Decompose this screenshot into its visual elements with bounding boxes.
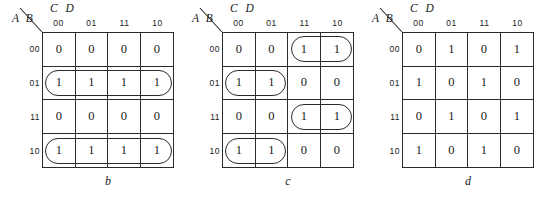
kmap-cell: 0: [321, 67, 354, 101]
row-header-11: 11: [374, 100, 400, 134]
kmap-cell: 0: [436, 67, 469, 101]
column-header-row: 00011110: [222, 18, 354, 28]
kmap-cell: 0: [256, 100, 289, 134]
karnaugh-map-figure: A BC D00011110000111100000111100001111bA…: [0, 0, 545, 202]
column-header-10: 10: [141, 18, 174, 28]
row-header-11: 11: [14, 100, 40, 134]
kmap-c: A BC D00011110000111100011110000111100c: [180, 0, 360, 202]
kmap-cell: 1: [256, 134, 289, 168]
kmap-grid-c: 0011110000111100: [222, 32, 354, 168]
kmap-cell: 0: [256, 33, 289, 67]
kmap-cell: 1: [321, 100, 354, 134]
kmap-cell: 1: [76, 67, 109, 101]
kmap-cell: 0: [141, 33, 174, 67]
kmap-cell: 0: [501, 67, 534, 101]
kmap-cell: 0: [436, 134, 469, 168]
kmap-cell: 0: [288, 67, 321, 101]
kmap-cell: 1: [141, 134, 174, 168]
kmap-cell: 1: [436, 33, 469, 67]
row-header-00: 00: [14, 32, 40, 66]
kmap-cell: 0: [468, 33, 501, 67]
kmap-cell: 1: [403, 134, 436, 168]
row-header-column: 00011110: [374, 32, 400, 168]
column-header-10: 10: [321, 18, 354, 28]
kmap-cell: 0: [108, 33, 141, 67]
kmap-cell: 1: [76, 134, 109, 168]
column-header-11: 11: [468, 18, 501, 28]
kmap-cell: 1: [288, 33, 321, 67]
row-header-column: 00011110: [14, 32, 40, 168]
column-variable-label: C D: [230, 2, 256, 14]
kmap-cell: 1: [108, 67, 141, 101]
kmap-cell: 1: [468, 67, 501, 101]
row-header-01: 01: [374, 66, 400, 100]
kmap-grid-d: 0101101001011010: [402, 32, 534, 168]
kmap-grid-b: 0000111100001111: [42, 32, 174, 168]
row-header-10: 10: [194, 134, 220, 168]
kmap-cell: 0: [108, 100, 141, 134]
kmap-cell: 1: [501, 100, 534, 134]
kmap-cell: 1: [288, 100, 321, 134]
kmap-cell: 1: [256, 67, 289, 101]
column-header-00: 00: [42, 18, 75, 28]
row-header-01: 01: [194, 66, 220, 100]
kmap-d: A BC D00011110000111100101101001011010d: [360, 0, 540, 202]
column-header-11: 11: [288, 18, 321, 28]
column-header-01: 01: [75, 18, 108, 28]
column-header-00: 00: [222, 18, 255, 28]
kmap-cell: 1: [501, 33, 534, 67]
column-header-row: 00011110: [42, 18, 174, 28]
kmap-cell: 1: [223, 67, 256, 101]
row-header-01: 01: [14, 66, 40, 100]
column-header-00: 00: [402, 18, 435, 28]
kmap-cell: 1: [43, 67, 76, 101]
kmap-caption-d: d: [402, 174, 534, 189]
column-variable-label: C D: [50, 2, 76, 14]
kmap-cell: 1: [43, 134, 76, 168]
kmap-cell: 1: [403, 67, 436, 101]
kmap-cell: 0: [501, 134, 534, 168]
column-header-01: 01: [255, 18, 288, 28]
kmap-cell: 0: [223, 33, 256, 67]
kmap-cell: 0: [141, 100, 174, 134]
kmap-cell: 1: [108, 134, 141, 168]
kmap-cell: 0: [76, 33, 109, 67]
kmap-cell: 1: [223, 134, 256, 168]
kmap-cell: 0: [468, 100, 501, 134]
kmap-b: A BC D00011110000111100000111100001111b: [0, 0, 180, 202]
row-header-00: 00: [374, 32, 400, 66]
kmap-cell: 1: [321, 33, 354, 67]
kmap-cell: 0: [43, 100, 76, 134]
kmap-cell: 1: [141, 67, 174, 101]
kmap-cell: 1: [468, 134, 501, 168]
kmap-cell: 0: [223, 100, 256, 134]
kmap-cell: 0: [403, 33, 436, 67]
column-header-11: 11: [108, 18, 141, 28]
kmap-cell: 0: [43, 33, 76, 67]
column-header-10: 10: [501, 18, 534, 28]
kmap-cell: 0: [321, 134, 354, 168]
column-variable-label: C D: [410, 2, 436, 14]
row-variable-label: A B: [372, 12, 395, 24]
row-header-10: 10: [14, 134, 40, 168]
kmap-caption-b: b: [42, 174, 174, 189]
kmap-cell: 0: [288, 134, 321, 168]
row-header-11: 11: [194, 100, 220, 134]
kmap-cell: 0: [403, 100, 436, 134]
column-header-row: 00011110: [402, 18, 534, 28]
kmap-cell: 1: [436, 100, 469, 134]
row-variable-label: A B: [192, 12, 215, 24]
row-header-10: 10: [374, 134, 400, 168]
column-header-01: 01: [435, 18, 468, 28]
kmap-cell: 0: [76, 100, 109, 134]
row-header-column: 00011110: [194, 32, 220, 168]
row-variable-label: A B: [12, 12, 35, 24]
row-header-00: 00: [194, 32, 220, 66]
kmap-caption-c: c: [222, 174, 354, 189]
